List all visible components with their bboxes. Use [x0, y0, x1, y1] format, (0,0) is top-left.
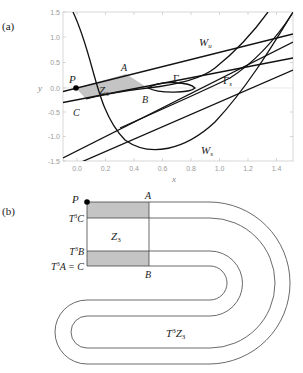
- x-tick-label: 1.0: [215, 165, 225, 172]
- x-tick-label: 0.6: [158, 165, 168, 172]
- label-ws: Ws: [201, 144, 213, 158]
- x-tick-label: 1.4: [272, 165, 282, 172]
- y-tick-label: 1.0: [50, 34, 60, 41]
- y-tick-label: -0.5: [48, 109, 60, 116]
- shaded-strip-bottom: [87, 251, 149, 266]
- x-tick-label: 0.8: [186, 165, 196, 172]
- z3-region: [76, 74, 148, 99]
- x-axis-label: x: [171, 174, 176, 184]
- figure: (a) 1.5 1.0 0.5 0.0 -0.5 -1.0 -1.5 0.0 0…: [0, 0, 303, 373]
- x-tick-label: 0.4: [129, 165, 139, 172]
- label-wu: Wu: [199, 36, 212, 50]
- x-tick-label: 0.2: [101, 165, 111, 172]
- label-p-b: P: [71, 193, 79, 205]
- lower-line-1: [63, 42, 293, 158]
- panel-a-label: (a): [2, 20, 15, 33]
- label-t3a-equals-c: T3A = C: [51, 261, 84, 272]
- label-t3b: T3B: [69, 246, 84, 257]
- point-p-marker: [73, 85, 79, 91]
- label-b-b: B: [145, 269, 151, 280]
- label-gamma-s: Γs: [223, 74, 232, 88]
- y-axis-label: y: [37, 83, 42, 93]
- shaded-strip-top: [87, 202, 149, 218]
- label-p: P: [68, 73, 76, 85]
- y-tick-label: -1.0: [48, 133, 60, 140]
- x-tick-label: 0.0: [72, 165, 82, 172]
- label-b: B: [142, 94, 148, 105]
- label-a-b: A: [144, 190, 152, 201]
- label-z3-b: Z3: [111, 230, 121, 244]
- x-tick-label: 1.2: [243, 165, 253, 172]
- label-a: A: [120, 62, 128, 73]
- panel-b-label: (b): [2, 205, 15, 218]
- label-c: C: [73, 107, 80, 118]
- label-t3z3: T3Z3: [166, 327, 186, 341]
- label-gamma-u: Γu: [173, 72, 183, 86]
- point-p-marker-b: [84, 199, 90, 205]
- y-tick-label: -1.5: [48, 158, 60, 165]
- y-tick-label: 1.5: [50, 9, 60, 16]
- y-tick-label: 0.0: [50, 85, 60, 92]
- label-t3c: T3C: [69, 213, 85, 224]
- horseshoe-image: [55, 202, 290, 364]
- y-tick-label: 0.5: [50, 59, 60, 66]
